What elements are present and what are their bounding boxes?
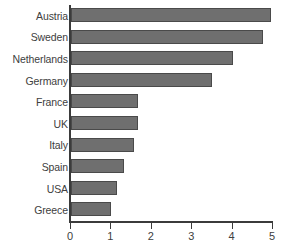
- x-axis-tick-label: 5: [269, 231, 275, 242]
- x-axis-tick: [70, 223, 71, 229]
- x-axis-tick: [272, 223, 273, 229]
- x-axis-tick: [151, 223, 152, 229]
- x-axis-tick: [191, 223, 192, 229]
- x-axis-ticks-group: 012345: [0, 0, 284, 250]
- x-axis-tick-label: 0: [67, 231, 73, 242]
- x-axis-tick-label: 3: [188, 231, 194, 242]
- x-axis-tick-label: 2: [148, 231, 154, 242]
- bar-chart: AustriaSwedenNetherlandsGermanyFranceUKI…: [0, 0, 284, 250]
- x-axis-tick: [232, 223, 233, 229]
- x-axis-tick-label: 4: [229, 231, 235, 242]
- x-axis-tick: [110, 223, 111, 229]
- x-axis-tick-label: 1: [107, 231, 113, 242]
